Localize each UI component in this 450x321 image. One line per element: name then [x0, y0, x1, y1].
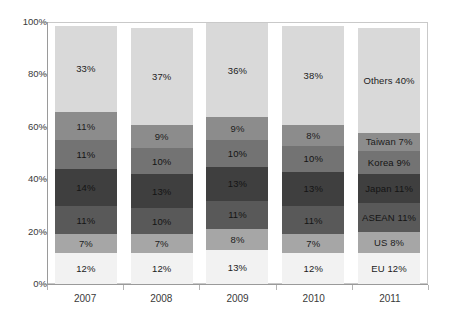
- bar-segment-label: 13%: [304, 183, 323, 194]
- bar-segment-eu[interactable]: EU 12%: [358, 253, 420, 284]
- bar-segment-japan[interactable]: 13%: [282, 172, 344, 206]
- x-axis-tick-label-2010: 2010: [276, 292, 352, 312]
- bar-segment-label: 13%: [152, 186, 171, 197]
- x-axis-tick-mark: [352, 285, 353, 290]
- bar-segment-asean[interactable]: 10%: [131, 208, 193, 234]
- bar-group-2009[interactable]: 13%8%11%13%10%9%36%: [200, 23, 276, 284]
- bar-segment-label: 11%: [304, 215, 323, 226]
- bar-segment-label: 12%: [152, 263, 171, 274]
- bar-segment-taiwan[interactable]: 11%: [55, 112, 117, 141]
- bar-segment-label: US 8%: [374, 237, 404, 248]
- bar-segment-asean[interactable]: ASEAN 11%: [358, 203, 420, 232]
- bar-segment-label: 8%: [231, 234, 245, 245]
- x-axis-tick-label-2009: 2009: [199, 292, 275, 312]
- bar-segment-us[interactable]: 7%: [131, 234, 193, 252]
- x-axis-tick-label-2007: 2007: [47, 292, 123, 312]
- bar-stack: 13%8%11%13%10%9%36%: [206, 23, 268, 284]
- bar-segment-label: 10%: [152, 156, 171, 167]
- bar-segment-label: Others 40%: [363, 75, 414, 86]
- bar-segment-label: 11%: [77, 121, 96, 132]
- bar-segment-label: 10%: [304, 153, 323, 164]
- bar-segment-label: 14%: [76, 182, 95, 193]
- bar-segment-asean[interactable]: 11%: [282, 206, 344, 235]
- bar-segment-taiwan[interactable]: 9%: [131, 125, 193, 148]
- x-axis-line: [47, 284, 428, 285]
- bar-segment-korea[interactable]: Korea 9%: [358, 151, 420, 174]
- bar-stack: 12%7%10%13%10%9%37%: [131, 23, 193, 284]
- bar-segment-japan[interactable]: Japan 11%: [358, 174, 420, 203]
- bar-segment-asean[interactable]: 11%: [206, 201, 268, 230]
- bar-segment-taiwan[interactable]: 9%: [206, 117, 268, 140]
- bar-segment-korea[interactable]: 11%: [55, 140, 117, 169]
- bar-segment-label: 7%: [306, 238, 320, 249]
- y-axis: 0%20%40%60%80%100%: [0, 0, 47, 321]
- bar-segment-label: 12%: [304, 263, 323, 274]
- bar-segment-label: Taiwan 7%: [366, 136, 413, 147]
- bar-segment-us[interactable]: 8%: [206, 229, 268, 250]
- bar-segment-eu[interactable]: 12%: [131, 253, 193, 284]
- bar-segment-japan[interactable]: 14%: [55, 169, 117, 206]
- bar-segment-label: 37%: [152, 71, 171, 82]
- bar-segment-asean[interactable]: 11%: [55, 206, 117, 235]
- bars-layer: 12%7%11%14%11%11%33%12%7%10%13%10%9%37%1…: [48, 23, 427, 284]
- bar-segment-label: 33%: [76, 63, 95, 74]
- bar-stack: 12%7%11%13%10%8%38%: [282, 23, 344, 284]
- bar-segment-taiwan[interactable]: Taiwan 7%: [358, 133, 420, 151]
- bar-segment-eu[interactable]: 13%: [206, 250, 268, 284]
- x-axis-tick-mark: [276, 285, 277, 290]
- bar-segment-label: 7%: [155, 238, 169, 249]
- bar-group-2011[interactable]: EU 12%US 8%ASEAN 11%Japan 11%Korea 9%Tai…: [351, 23, 427, 284]
- bar-segment-others[interactable]: 38%: [282, 26, 344, 125]
- bar-segment-label: Japan 11%: [365, 183, 413, 194]
- bar-segment-label: 11%: [77, 215, 96, 226]
- bar-segment-others[interactable]: Others 40%: [358, 28, 420, 132]
- x-axis-tick-mark: [428, 285, 429, 290]
- bar-segment-japan[interactable]: 13%: [131, 174, 193, 208]
- bar-segment-label: 13%: [228, 178, 247, 189]
- bar-segment-label: 8%: [306, 130, 320, 141]
- bar-segment-us[interactable]: 7%: [282, 234, 344, 252]
- bar-segment-label: 10%: [152, 216, 171, 227]
- bar-stack: 12%7%11%14%11%11%33%: [55, 23, 117, 284]
- stacked-bar-chart: 0%20%40%60%80%100% 12%7%11%14%11%11%33%1…: [0, 0, 450, 321]
- bar-segment-others[interactable]: 36%: [206, 23, 268, 117]
- bar-segment-taiwan[interactable]: 8%: [282, 125, 344, 146]
- bar-segment-label: 11%: [228, 209, 247, 220]
- bar-segment-label: 12%: [76, 263, 95, 274]
- bar-segment-others[interactable]: 33%: [55, 26, 117, 112]
- bar-segment-label: ASEAN 11%: [362, 212, 416, 223]
- bar-segment-label: 38%: [304, 70, 323, 81]
- bar-segment-label: 9%: [155, 131, 169, 142]
- bar-segment-korea[interactable]: 10%: [206, 140, 268, 166]
- bar-segment-others[interactable]: 37%: [131, 28, 193, 125]
- bar-group-2010[interactable]: 12%7%11%13%10%8%38%: [275, 23, 351, 284]
- bar-stack: EU 12%US 8%ASEAN 11%Japan 11%Korea 9%Tai…: [358, 23, 420, 284]
- bar-segment-label: 13%: [228, 262, 247, 273]
- bar-segment-label: 7%: [79, 238, 93, 249]
- bar-segment-label: 10%: [228, 148, 247, 159]
- x-axis-labels: 20072008200920102011: [47, 292, 428, 312]
- bar-segment-japan[interactable]: 13%: [206, 167, 268, 201]
- x-axis-tick-mark: [123, 285, 124, 290]
- x-axis-tick-mark: [47, 285, 48, 290]
- bar-segment-us[interactable]: 7%: [55, 234, 117, 252]
- bar-segment-label: 9%: [231, 123, 245, 134]
- bar-segment-korea[interactable]: 10%: [131, 148, 193, 174]
- bar-segment-label: EU 12%: [371, 263, 406, 274]
- bar-group-2007[interactable]: 12%7%11%14%11%11%33%: [48, 23, 124, 284]
- bar-segment-korea[interactable]: 10%: [282, 146, 344, 172]
- bar-segment-eu[interactable]: 12%: [55, 253, 117, 284]
- x-axis-tick-label-2008: 2008: [123, 292, 199, 312]
- bar-segment-us[interactable]: US 8%: [358, 232, 420, 253]
- bar-segment-label: 36%: [228, 65, 247, 76]
- bar-segment-label: Korea 9%: [368, 157, 411, 168]
- bar-group-2008[interactable]: 12%7%10%13%10%9%37%: [124, 23, 200, 284]
- x-axis-tick-mark: [199, 285, 200, 290]
- bar-segment-label: 11%: [77, 149, 96, 160]
- bar-segment-eu[interactable]: 12%: [282, 253, 344, 284]
- x-axis-tick-label-2011: 2011: [352, 292, 428, 312]
